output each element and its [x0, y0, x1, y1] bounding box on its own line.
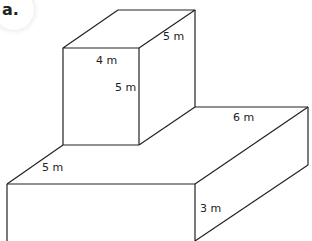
base-depth-left-label: 5 m [42, 161, 63, 174]
composite-prism-diagram [0, 0, 312, 241]
top-depth-label: 5 m [163, 30, 184, 43]
base-depth-right-label: 6 m [233, 111, 254, 124]
base-box [7, 107, 308, 241]
base-height-label: 3 m [200, 202, 221, 215]
top-width-label: 4 m [96, 54, 117, 67]
top-height-label: 5 m [115, 81, 136, 94]
